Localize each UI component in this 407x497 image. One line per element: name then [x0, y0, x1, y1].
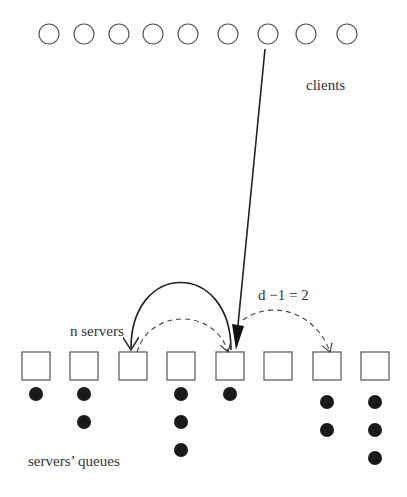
servers-queues-label: servers’ queues [28, 453, 120, 469]
server-node [313, 352, 341, 380]
server-node [216, 352, 244, 380]
server-node [70, 352, 98, 380]
clients-label: clients [306, 77, 345, 93]
client-node [39, 24, 59, 44]
queue-job [368, 451, 382, 465]
queue-job [174, 387, 188, 401]
probe-arc-solid [131, 283, 231, 351]
n-servers-label: n servers [70, 323, 124, 339]
client-node [74, 24, 94, 44]
d-minus-1-label: d −1 = 2 [258, 287, 309, 303]
server-node [361, 352, 389, 380]
request-arrowhead [232, 324, 244, 350]
queue-job [223, 387, 237, 401]
queue-job [77, 387, 91, 401]
client-node [109, 24, 129, 44]
probe-arc-dashed-left [137, 319, 228, 352]
client-node [296, 24, 316, 44]
server-node [264, 352, 292, 380]
server-node [22, 352, 50, 380]
queue-job [174, 443, 188, 457]
server-node [119, 352, 147, 380]
server-node [167, 352, 195, 380]
client-node [258, 24, 278, 44]
probe-arc-dashed-right [243, 310, 330, 352]
client-node [143, 24, 163, 44]
queue-job [77, 415, 91, 429]
client-node [218, 24, 238, 44]
queue-job [320, 423, 334, 437]
queue-job [368, 423, 382, 437]
request-arrow [238, 49, 265, 325]
client-node [178, 24, 198, 44]
diagram-canvas: clients d −1 = 2 n servers servers’ queu… [0, 0, 407, 497]
queue-job [174, 415, 188, 429]
client-node [337, 24, 357, 44]
queue-job [368, 395, 382, 409]
queue-job [29, 387, 43, 401]
clients-row [39, 24, 357, 44]
servers-row [22, 352, 389, 380]
queue-job [320, 395, 334, 409]
